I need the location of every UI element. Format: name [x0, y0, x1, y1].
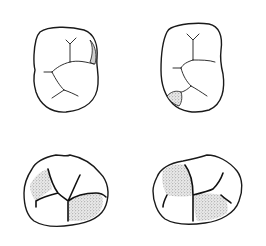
tooth-top-left-svg [0, 0, 133, 123]
tooth-bottom-left-svg [0, 123, 133, 246]
tooth-diagram-top-left [0, 0, 133, 123]
tooth-top-right-svg [133, 0, 266, 123]
tooth-bottom-right-svg [133, 123, 266, 246]
tooth-diagram-bottom-right [133, 123, 266, 246]
tooth-diagram-bottom-left [0, 123, 133, 246]
tooth-diagram-top-right [133, 0, 266, 123]
